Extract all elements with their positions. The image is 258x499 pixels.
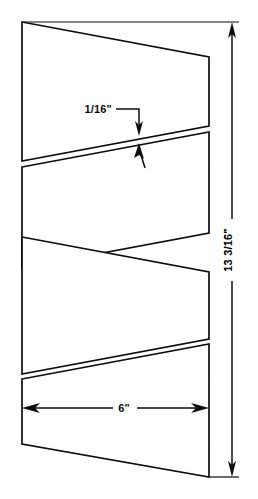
width-dimension-label: 6" <box>118 402 130 414</box>
height-dimension-label-text: 13 3/16" <box>222 228 234 272</box>
drawing-canvas: 13 3/16" 13 3/16" 6" 1/16" <box>0 0 258 499</box>
kerf-dimension-label: 1/16" <box>84 103 112 115</box>
technical-drawing-figure: 13 3/16" 13 3/16" 6" 1/16" <box>0 0 258 499</box>
